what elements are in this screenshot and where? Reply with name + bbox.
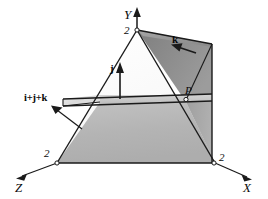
axis-y-arrowhead — [133, 7, 141, 17]
vertex-dot-z-base — [55, 161, 59, 165]
vertex-dot-x-base — [212, 161, 216, 165]
vector-ijk-shaft — [57, 110, 82, 129]
axis-label-z: Z — [15, 180, 23, 195]
vertex-dot-apex — [135, 28, 139, 32]
vector-label-ijk: i+j+k — [24, 92, 48, 103]
point-label-p: P — [184, 84, 192, 96]
vertex-dot-p — [184, 97, 188, 101]
axis-z-line — [22, 163, 57, 176]
vector-label-j: j — [109, 62, 114, 74]
vector-label-k: k — [172, 33, 179, 45]
tick-label-x-2: 2 — [219, 151, 225, 163]
tick-label-z-2: 2 — [44, 147, 50, 159]
figure-canvas: Y 2 X 2 Z 2 P j k i+j+k — [0, 0, 268, 199]
axis-label-x: X — [242, 180, 252, 195]
axis-label-y: Y — [124, 7, 133, 22]
vector-diagram-figure: Y 2 X 2 Z 2 P j k i+j+k — [0, 0, 268, 199]
tick-label-y-2: 2 — [124, 24, 130, 36]
axis-x-line — [215, 163, 247, 177]
